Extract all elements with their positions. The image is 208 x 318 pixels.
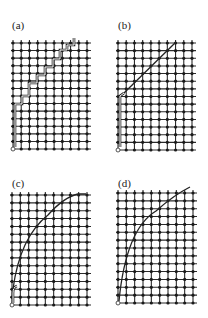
lattice-grid: [10, 192, 91, 307]
lattice-grid: [116, 40, 196, 152]
origin-marker: [116, 301, 120, 305]
origin-marker: [116, 148, 120, 152]
panel-c: (c): [0, 159, 104, 318]
panel-d: (d): [104, 159, 208, 318]
staircase-path: [15, 38, 74, 147]
curve-path: [119, 187, 190, 301]
origin-marker: [10, 303, 14, 307]
vertical-segment: [120, 93, 124, 147]
grid-diagram-a: [0, 0, 104, 159]
grid-diagram-b: [104, 0, 208, 159]
grid-diagram-c: [0, 159, 104, 318]
panel-b: (b): [104, 0, 208, 159]
panel-a: (a): [0, 0, 104, 159]
origin-marker: [11, 147, 15, 151]
lattice-grid: [116, 190, 197, 305]
curve-path: [13, 194, 86, 289]
grid-diagram-d: [104, 159, 208, 318]
